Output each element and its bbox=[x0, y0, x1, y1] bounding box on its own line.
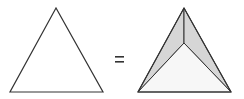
triangle-equals-pyramid-diagram bbox=[0, 0, 244, 99]
flat-triangle bbox=[10, 8, 103, 92]
pyramid-triangle bbox=[138, 8, 231, 92]
equals-sign bbox=[115, 56, 124, 63]
